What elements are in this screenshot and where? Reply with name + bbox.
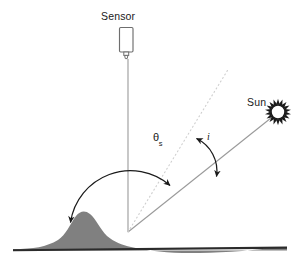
sensor-nozzle-collar [124,52,129,55]
solar-zenith-angle-label: θs [153,131,163,146]
incidence-angle-arc [197,139,217,177]
sun-ray-line [128,118,271,232]
diagram-graphics [0,0,303,270]
incidence-angle-label: i [207,131,210,142]
theta-subscript: s [159,139,163,148]
sensor-icon [120,28,134,59]
surface-normal-line [128,68,229,232]
terrain-group [13,212,287,253]
sensor-body [120,28,134,53]
sensor-nozzle-tip [125,55,128,58]
terrain-hill-fill [13,212,287,253]
sun-icon [265,99,292,125]
sun-disc-core [274,108,282,116]
diagram-canvas: Sensor Sun θs i [0,0,303,270]
sensor-label: Sensor [101,10,135,22]
sun-label: Sun [247,96,266,108]
